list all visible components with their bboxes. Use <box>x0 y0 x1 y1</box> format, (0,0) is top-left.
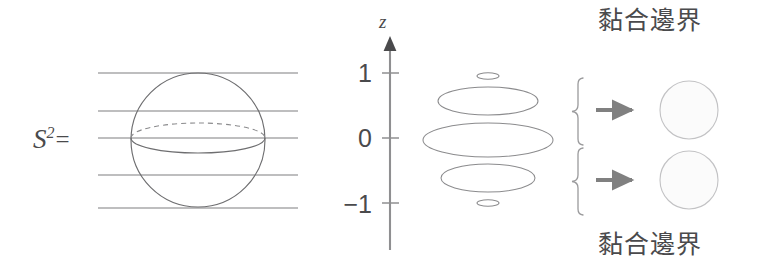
z-tick-label-1: 1 <box>338 61 372 86</box>
braces-group <box>572 78 583 215</box>
lower-disc <box>660 151 718 209</box>
sphere-label-symbol: S <box>33 124 47 154</box>
sphere-equator-back <box>131 123 265 138</box>
upper-disc <box>660 81 718 139</box>
slice-circle-upper <box>438 87 538 115</box>
sphere-label: S2= <box>33 126 70 153</box>
z-tick-label-0: 0 <box>338 126 372 151</box>
slice-circle-equator <box>423 123 553 157</box>
slice-stack-group <box>423 73 553 206</box>
sphere-label-exponent: 2 <box>47 124 55 141</box>
sphere-group <box>131 73 265 207</box>
caption-top: 黏合邊界 <box>598 8 702 33</box>
caption-bottom: 黏合邊界 <box>598 232 702 257</box>
sphere-label-equals: = <box>56 126 70 153</box>
z-axis-name: z <box>379 12 386 31</box>
slice-circle-lower <box>441 164 535 192</box>
z-axis-group <box>382 36 399 250</box>
sphere-outline <box>131 73 265 207</box>
z-axis-arrowhead <box>384 36 397 51</box>
slice-point-top <box>477 73 499 79</box>
upper-brace <box>572 78 583 145</box>
figure-canvas: S2= z 1 0 −1 黏合邊界 黏合邊界 <box>0 0 772 277</box>
quotient-discs-group <box>660 81 718 209</box>
level-lines-group <box>98 73 298 208</box>
slice-point-bottom <box>477 200 499 206</box>
z-tick-label-minus-1: −1 <box>330 192 372 217</box>
lower-brace <box>572 148 583 215</box>
sphere-equator-front <box>131 138 265 153</box>
arrows-group <box>596 110 632 180</box>
